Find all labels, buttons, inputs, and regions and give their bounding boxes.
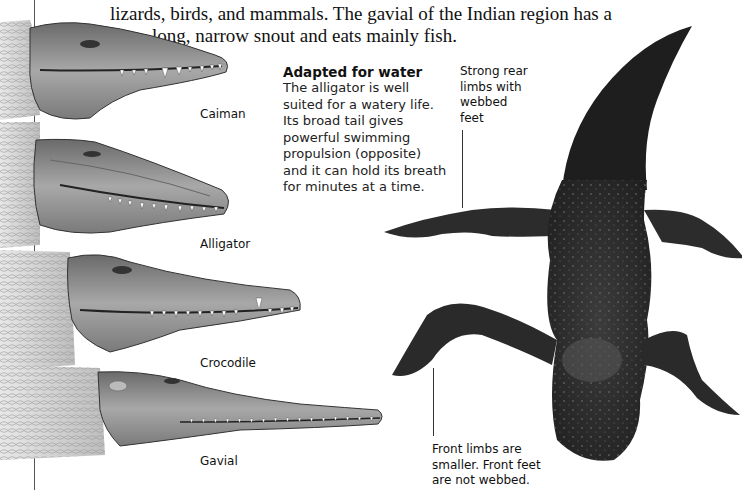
label-caiman: Caiman — [200, 107, 246, 121]
callout-front-line-1: Front limbs are — [432, 442, 541, 458]
label-crocodile: Crocodile — [200, 356, 256, 370]
callout-rear-line-4: feet — [460, 111, 528, 127]
alligator-topview-illustration — [382, 20, 742, 490]
label-gavial: Gavial — [200, 454, 238, 468]
callout-rear-line-2: limbs with — [460, 80, 528, 96]
gavial-head — [0, 365, 382, 460]
caiman-head — [0, 20, 228, 120]
callout-rear-limbs: Strong rear limbs with webbed feet — [460, 64, 528, 126]
callout-rear-line-1: Strong rear — [460, 64, 528, 80]
callout-front-line-3: are not webbed. — [432, 473, 541, 489]
callout-front-line-2: smaller. Front feet — [432, 458, 541, 474]
callout-rear-line-3: webbed — [460, 95, 528, 111]
callout-front-limbs: Front limbs are smaller. Front feet are … — [432, 442, 541, 489]
crocodile-head — [0, 250, 300, 370]
callout-front-leader-line — [433, 368, 434, 436]
alligator-head — [0, 122, 229, 248]
callout-rear-leader-line — [462, 130, 463, 208]
label-alligator: Alligator — [200, 237, 250, 251]
